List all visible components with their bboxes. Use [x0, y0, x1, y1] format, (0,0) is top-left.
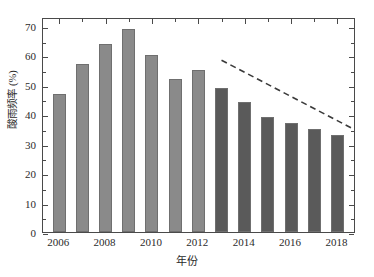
y-tick-minor-right	[351, 190, 354, 191]
x-tick-minor-top	[222, 19, 223, 22]
y-tick-major-right	[349, 28, 354, 29]
x-tick-label: 2018	[325, 237, 347, 248]
x-tick-major-top	[198, 19, 199, 24]
x-tick-major-top	[59, 19, 60, 24]
x-tick-label: 2010	[140, 237, 162, 248]
x-tick-minor-top	[268, 19, 269, 22]
y-tick-major	[43, 205, 48, 206]
y-tick-major-right	[349, 205, 354, 206]
y-tick-label: 10	[25, 198, 36, 209]
bar-2007	[76, 64, 89, 232]
y-tick-minor-right	[351, 72, 354, 73]
bar-2018	[331, 135, 344, 232]
y-tick-major	[43, 87, 48, 88]
y-tick-minor-right	[351, 160, 354, 161]
bar-2006	[53, 94, 66, 232]
x-tick-minor-top	[175, 19, 176, 22]
y-tick-major	[43, 175, 48, 176]
bar-2009	[122, 29, 135, 232]
y-tick-label: 50	[25, 80, 36, 91]
y-tick-label: 40	[25, 110, 36, 121]
bar-2010	[145, 55, 158, 232]
x-tick-label: 2006	[47, 237, 69, 248]
y-tick-minor	[43, 160, 46, 161]
y-tick-label: 60	[25, 51, 36, 62]
bar-2008	[99, 44, 112, 232]
y-tick-major	[43, 116, 48, 117]
y-tick-minor	[43, 190, 46, 191]
y-tick-major-right	[349, 234, 354, 235]
y-tick-label: 20	[25, 169, 36, 180]
y-tick-minor	[43, 131, 46, 132]
bar-2014	[238, 102, 251, 232]
x-tick-label: 2012	[186, 237, 208, 248]
x-tick-major-top	[106, 19, 107, 24]
bar-2015	[261, 117, 274, 232]
x-tick-minor-top	[129, 19, 130, 22]
y-tick-major	[43, 234, 48, 235]
y-tick-major	[43, 57, 48, 58]
y-tick-label: 70	[25, 21, 36, 32]
acid-rain-frequency-chart: 酸雨频率 (%) 010203040506070 200620082010201…	[0, 0, 374, 277]
bar-2011	[169, 79, 182, 232]
x-tick-minor-top	[314, 19, 315, 22]
y-tick-label: 30	[25, 139, 36, 150]
y-tick-minor-right	[351, 131, 354, 132]
y-tick-minor	[43, 43, 46, 44]
y-tick-minor	[43, 72, 46, 73]
y-tick-minor	[43, 101, 46, 102]
plot-area	[42, 18, 355, 233]
x-axis-tick-labels: 2006200820102012201420162018	[0, 237, 374, 253]
y-tick-major-right	[349, 175, 354, 176]
y-axis-tick-labels: 010203040506070	[0, 18, 36, 233]
y-tick-major-right	[349, 146, 354, 147]
x-tick-major-top	[245, 19, 246, 24]
x-tick-label: 2014	[233, 237, 255, 248]
y-tick-minor-right	[351, 43, 354, 44]
x-tick-major-top	[337, 19, 338, 24]
y-tick-minor-right	[351, 101, 354, 102]
bar-2017	[308, 129, 321, 232]
y-tick-major	[43, 28, 48, 29]
y-tick-major	[43, 146, 48, 147]
x-tick-label: 2016	[279, 237, 301, 248]
x-tick-major-top	[152, 19, 153, 24]
y-tick-major-right	[349, 116, 354, 117]
y-tick-major-right	[349, 87, 354, 88]
bar-2012	[192, 70, 205, 232]
bar-2013	[215, 88, 228, 232]
x-tick-minor-top	[82, 19, 83, 22]
x-axis-title: 年份	[0, 252, 374, 268]
x-tick-label: 2008	[94, 237, 116, 248]
y-tick-major-right	[349, 57, 354, 58]
x-tick-major-top	[291, 19, 292, 24]
y-tick-minor	[43, 219, 46, 220]
bar-2016	[285, 123, 298, 232]
y-tick-minor-right	[351, 219, 354, 220]
